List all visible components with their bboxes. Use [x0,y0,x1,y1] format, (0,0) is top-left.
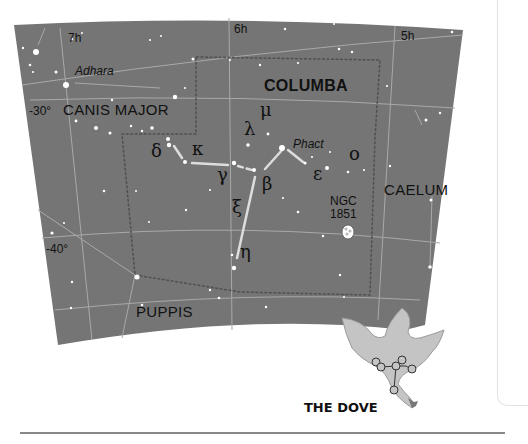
declination-label-minus30: -30° [29,105,51,117]
hour-label-6h: 6h [234,23,247,35]
star-name-adhara: Adhara [75,65,114,77]
greek-delta: δ [151,142,162,160]
hour-label-5h: 5h [401,30,414,42]
caption-the-dove: THE DOVE [304,401,378,414]
greek-omicron: ο [349,145,360,163]
greek-xi: ξ [232,198,242,216]
greek-eta: η [240,243,251,261]
divider-rule [20,432,505,434]
constellation-label-puppis: PUPPIS [136,304,193,319]
dove-illustration-icon [342,308,444,408]
greek-kappa: κ [192,140,203,158]
constellation-title-columba: COLUMBA [264,78,348,94]
ngc-label-line2: 1851 [330,208,357,221]
constellation-label-caelum: CAELUM [384,182,448,197]
star-name-phact: Phact [293,138,324,150]
constellation-label-canis-major: CANIS MAJOR [63,102,169,117]
greek-gamma: γ [217,166,228,184]
greek-lambda: λ [244,120,255,138]
greek-beta: β [262,175,272,193]
ngc-1851-label: NGC 1851 [330,195,357,221]
greek-epsilon: ε [313,165,322,183]
hour-label-7h: 7h [68,32,81,44]
greek-mu: μ [260,101,272,119]
declination-label-minus40: -40° [46,243,68,255]
ngc-1851-cluster-icon [342,225,354,239]
